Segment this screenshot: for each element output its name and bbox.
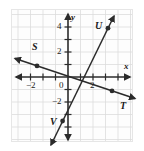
graph-figure: x y −2 2 4 2 −2 0 S U V T	[0, 0, 144, 151]
point-label-u: U	[95, 21, 102, 31]
point-v	[60, 119, 65, 124]
point-label-t: T	[120, 101, 126, 111]
y-tick-label-4: 4	[57, 22, 62, 31]
y-tick-label-2: 2	[57, 47, 62, 56]
point-t	[110, 89, 115, 94]
x-axis-label: x	[124, 62, 129, 71]
point-s	[35, 64, 40, 69]
y-tick-label-neg2: −2	[52, 97, 62, 106]
point-u	[106, 26, 111, 31]
point-label-s: S	[32, 42, 38, 52]
x-tick-label-2: 2	[90, 81, 95, 90]
line-st	[15, 59, 135, 99]
x-tick-label-neg2: −2	[26, 81, 36, 90]
y-axis-label: y	[71, 13, 75, 22]
point-label-v: V	[50, 117, 57, 127]
origin-label: 0	[59, 81, 64, 90]
graph-plot	[0, 0, 144, 151]
